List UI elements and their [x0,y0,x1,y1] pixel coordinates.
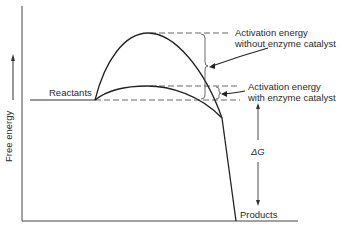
y-axis-label: Free energy [3,111,14,162]
annotation-uncatalyzed-line2: without enzyme catalyst [235,38,336,49]
catalyzed-curve [95,86,222,118]
uncatalyzed-pointer-arrow-icon [209,48,268,69]
reactants-label: Reactants [49,87,92,98]
annotation-uncatalyzed-line1: Activation energy [235,27,336,38]
catalyzed-pointer-arrow-icon [221,91,245,97]
uncatalyzed-brace [201,34,208,99]
uncatalyzed-curve [95,33,222,118]
delta-g-label: ΔG [251,146,265,157]
annotation-uncatalyzed: Activation energy without enzyme catalys… [235,27,336,49]
annotation-catalyzed-line1: Activation energy [248,81,336,92]
delta-g-text: ΔG [251,146,265,157]
annotation-catalyzed-line2: with enzyme catalyst [248,92,336,103]
catalyzed-brace [216,87,221,99]
annotation-catalyzed: Activation energy with enzyme catalyst [248,81,336,103]
descent-to-products [222,118,236,221]
y-axis-arrow-icon [11,54,15,100]
products-label: Products [240,209,278,220]
